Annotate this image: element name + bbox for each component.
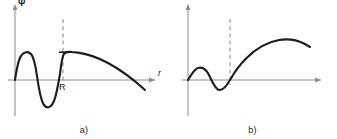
tick-label-R-a: R — [59, 82, 66, 92]
x-axis-b — [182, 78, 321, 83]
y-axis-label-a: Ψ — [18, 0, 25, 8]
x-axis-label-a: r — [158, 68, 161, 78]
wavefunction-curve-b — [188, 39, 310, 90]
panel-a-caption: a) — [0, 125, 168, 135]
panel-a-plot — [0, 0, 168, 139]
panel-b-plot — [168, 0, 337, 139]
figure-container: Ψ r R a) Ψ r R b) — [0, 0, 337, 139]
panel-a: Ψ r R a) — [0, 0, 168, 139]
y-axis-b — [186, 4, 191, 116]
y-axis-a — [13, 4, 18, 116]
panel-b-caption: b) — [168, 125, 337, 135]
panel-b: Ψ r R b) — [168, 0, 337, 139]
